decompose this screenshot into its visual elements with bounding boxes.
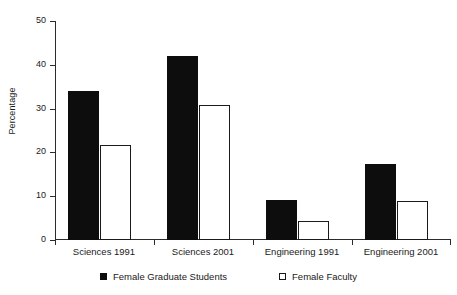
- legend: Female Graduate Students Female Faculty: [0, 271, 457, 282]
- bar-sciences-1991-female-graduate-students: [68, 91, 99, 240]
- open-square-icon: [279, 273, 286, 280]
- legend-item-female-faculty: Female Faculty: [279, 271, 357, 282]
- y-tick-label-20: 20: [36, 146, 46, 156]
- bar-sciences-2001-female-graduate-students: [167, 56, 198, 240]
- bar-engineering-1991-female-graduate-students: [266, 200, 297, 240]
- x-axis-label-2: Engineering 1991: [265, 246, 339, 257]
- y-axis-title: Percentage: [7, 71, 17, 151]
- y-tick-label-50: 50: [36, 15, 46, 25]
- y-tick-label-0: 0: [41, 234, 46, 244]
- bar-engineering-2001-female-faculty: [397, 201, 428, 240]
- y-tick-40: 40: [50, 65, 55, 66]
- bar-engineering-1991-female-faculty: [298, 221, 329, 240]
- x-tick-1: [154, 240, 155, 245]
- legend-label-1: Female Faculty: [292, 271, 357, 282]
- bar-sciences-1991-female-faculty: [100, 145, 131, 240]
- x-tick-4: [450, 240, 451, 245]
- y-tick-20: 20: [50, 152, 55, 153]
- plot-area: 50 40 30 20 10 0: [55, 21, 451, 240]
- y-tick-10: 10: [50, 196, 55, 197]
- bar-engineering-2001-female-graduate-students: [365, 164, 396, 240]
- y-tick-30: 30: [50, 109, 55, 110]
- bar-sciences-2001-female-faculty: [199, 105, 230, 240]
- x-axis-label-0: Sciences 1991: [73, 246, 135, 257]
- y-tick-label-10: 10: [36, 190, 46, 200]
- legend-label-0: Female Graduate Students: [113, 271, 227, 282]
- x-axis-label-3: Engineering 2001: [364, 246, 438, 257]
- x-tick-2: [253, 240, 254, 245]
- y-tick-50: 50: [50, 21, 55, 22]
- y-tick-label-40: 40: [36, 59, 46, 69]
- filled-square-icon: [100, 273, 107, 280]
- x-tick-3: [352, 240, 353, 245]
- x-tick-0: [55, 240, 56, 245]
- y-tick-label-30: 30: [36, 103, 46, 113]
- y-axis-line: [55, 21, 56, 240]
- x-axis-label-1: Sciences 2001: [172, 246, 234, 257]
- legend-item-female-graduate-students: Female Graduate Students: [100, 271, 227, 282]
- bar-chart: Percentage 50 40 30 20 10 0 Scien: [0, 0, 457, 295]
